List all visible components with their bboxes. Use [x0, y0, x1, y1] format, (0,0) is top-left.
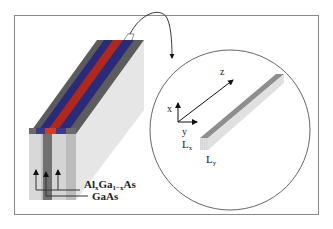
z-axis-label: z	[220, 66, 225, 77]
y-axis-label: y	[182, 126, 187, 137]
x-axis-label: x	[167, 103, 172, 114]
diagram-stage: AlxGa1−xAs GaAs x y z Lx Ly	[0, 0, 333, 229]
gaas-label: GaAs	[92, 190, 119, 202]
diagram-canvas: AlxGa1−xAs GaAs x y z Lx Ly	[0, 0, 333, 229]
